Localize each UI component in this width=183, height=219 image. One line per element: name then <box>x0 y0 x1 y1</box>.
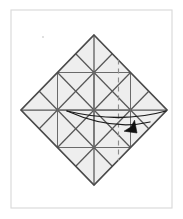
origami-diagram-canvas <box>0 0 183 219</box>
paper-speck <box>42 36 44 38</box>
origami-figure: Origami crease pattern step <box>0 0 183 219</box>
crease-lines-group <box>21 35 167 185</box>
paper-marks-group <box>42 36 44 38</box>
paper-group <box>21 35 167 185</box>
